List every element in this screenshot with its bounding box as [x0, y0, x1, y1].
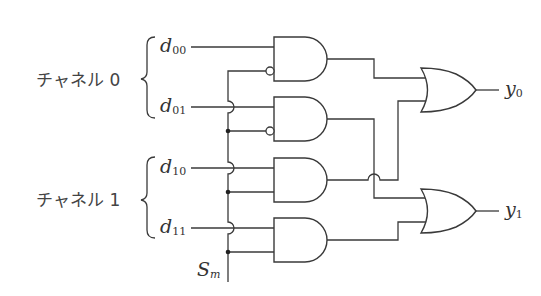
junction-dot: [226, 250, 231, 255]
output-y1-label: y1: [504, 198, 523, 221]
junction-dot: [226, 190, 231, 195]
select-line: [228, 71, 266, 282]
channel-1-brace: [141, 157, 155, 238]
wire-and3-to-or1: [327, 222, 427, 240]
input-d00-label: d00: [160, 34, 186, 57]
or-gate-0: [421, 68, 476, 112]
input-d10-label: d10: [160, 155, 186, 178]
channel-0-label: チャネル 0: [36, 70, 120, 90]
inverter-bubble-icon: [266, 67, 274, 75]
channel-1-label: チャネル 1: [36, 190, 120, 210]
input-d01-label: d01: [160, 94, 186, 117]
channel-0-brace: [141, 37, 155, 118]
and-gate-0: [274, 37, 327, 81]
and-gate-3: [274, 218, 327, 262]
output-y0-label: y0: [504, 77, 523, 100]
wire-and0-to-or0: [327, 59, 427, 78]
wire-and1-to-or1: [327, 119, 427, 198]
and-gate-2: [274, 158, 327, 202]
select-sm-label: Sm: [197, 258, 220, 281]
inverter-bubble-icon: [266, 127, 274, 135]
junction-dot: [226, 129, 231, 134]
and-gate-1: [274, 97, 327, 141]
input-d11-label: d11: [160, 215, 186, 238]
or-gate-1: [421, 189, 476, 233]
wire-and2-to-or0: [327, 101, 427, 180]
mux-circuit-diagram: チャネル 0 チャネル 1 d00 d01 d10 d11 Sm: [0, 0, 541, 296]
